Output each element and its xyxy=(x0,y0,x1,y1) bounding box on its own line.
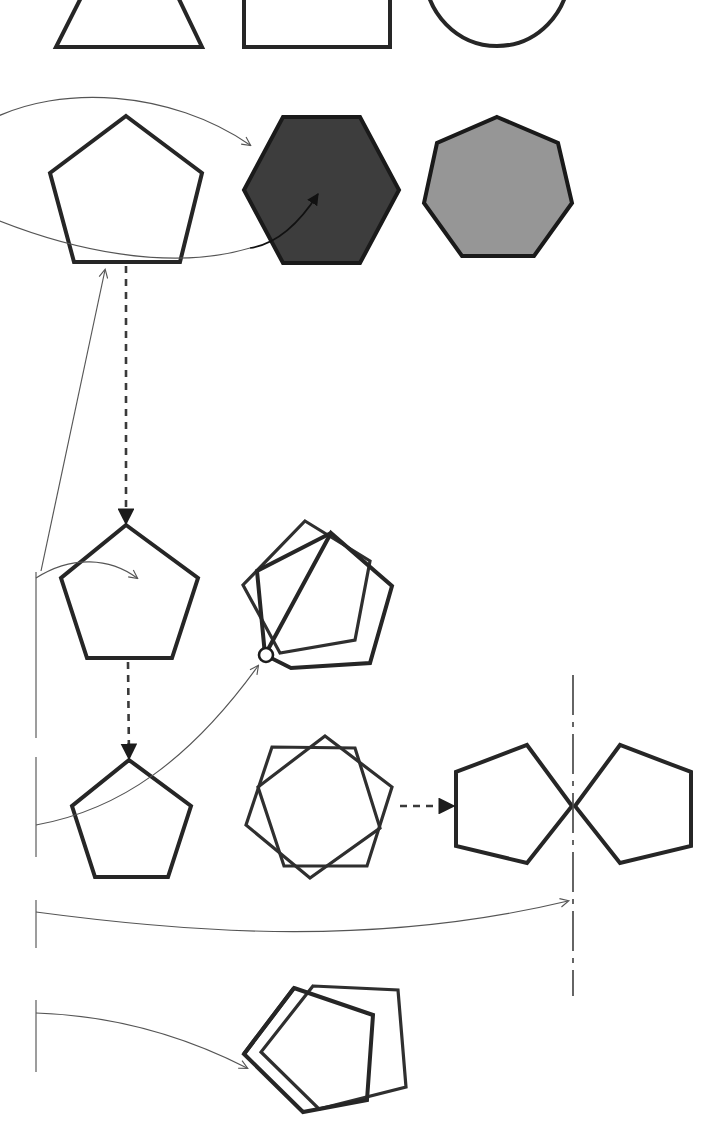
rotation-pivot-dot xyxy=(259,648,273,662)
transformation-diagram xyxy=(0,0,726,1145)
heptagon-filled-shape xyxy=(424,117,572,256)
figure-root xyxy=(0,0,726,1145)
